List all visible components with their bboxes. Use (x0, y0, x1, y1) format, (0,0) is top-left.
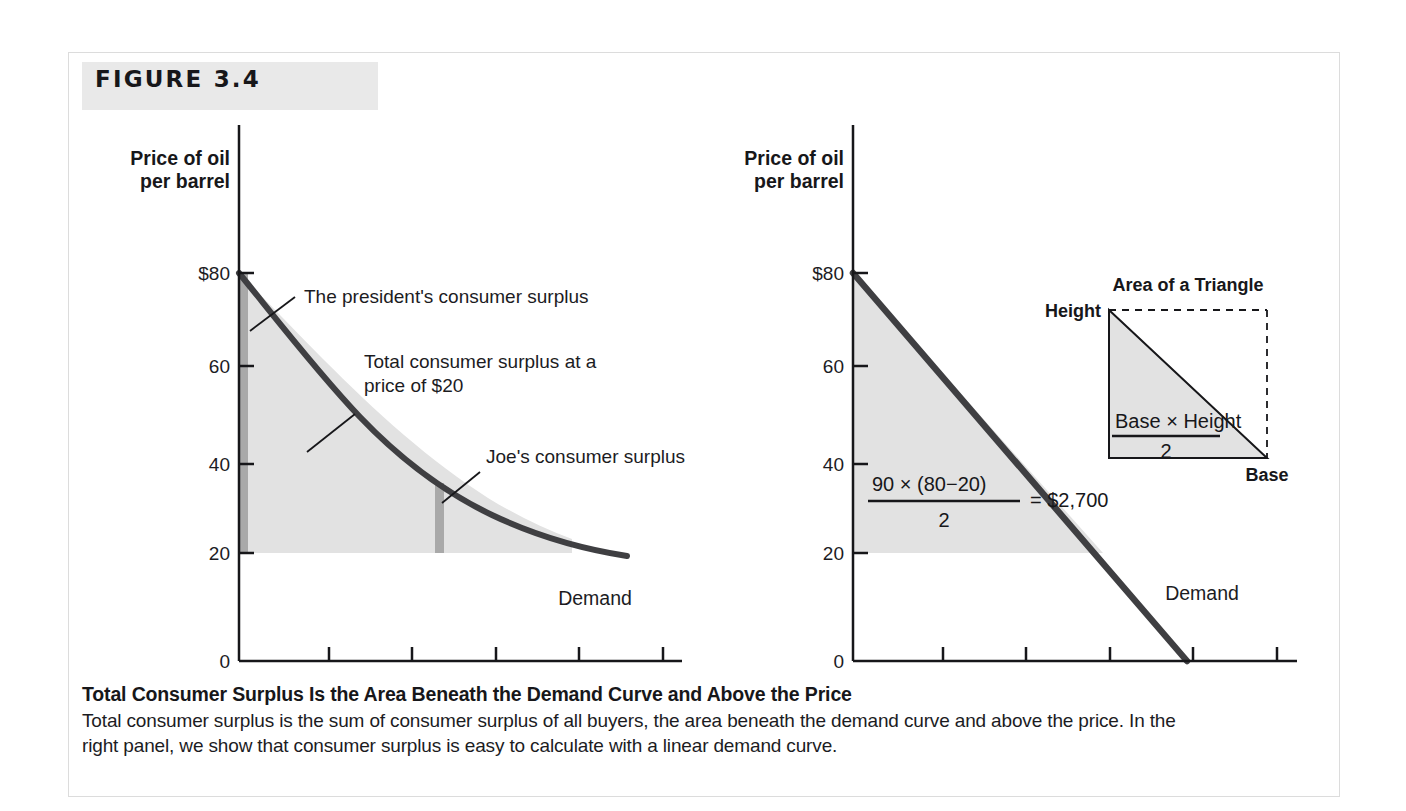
right-ylabel-40: 40 (823, 454, 844, 475)
left-xlabel-30: 30 (318, 674, 339, 678)
inset-formula-numerator: Base × Height (1115, 410, 1242, 432)
left-xlabel-60: 60 (401, 674, 422, 678)
total-surplus-annotation-line1: Total consumer surplus at a (364, 351, 597, 372)
caption-body: Total consumer surplus is the sum of con… (82, 708, 1212, 759)
inset-height-label: Height (1045, 301, 1101, 321)
president-annotation-text: The president's consumer surplus (304, 286, 589, 307)
right-ylabel-80: $80 (812, 263, 844, 284)
left-ylabel-80: $80 (198, 263, 230, 284)
right-formula-denominator: 2 (938, 509, 949, 531)
joe-surplus-bar (435, 483, 444, 553)
right-xlabel-60: 60 (1015, 674, 1036, 678)
inset-title-label: Area of a Triangle (1112, 275, 1263, 295)
figure-page: FIGURE 3.4 (0, 0, 1406, 811)
left-ylabel-60: 60 (209, 356, 230, 377)
inset-base-label: Base (1245, 465, 1288, 485)
left-y-axis-title-line2: per barrel (140, 170, 230, 192)
right-panel-chart: $80 60 40 20 0 0 30 60 90 120 150 Price … (744, 125, 1297, 678)
joe-annotation-text: Joe's consumer surplus (486, 446, 685, 467)
right-formula-result: = $2,700 (1030, 489, 1108, 511)
right-formula-numerator: 90 × (80−20) (872, 473, 987, 495)
left-y-axis-title-line1: Price of oil (130, 147, 230, 169)
figure-graphics: $80 60 40 20 0 0 30 60 90 120 150 Price … (82, 115, 1328, 678)
right-xlabel-90: 90 (1099, 674, 1120, 678)
left-xlabel-120: 120 (563, 674, 595, 678)
figure-card: FIGURE 3.4 (68, 52, 1340, 797)
left-ylabel-40: 40 (209, 454, 230, 475)
right-ylabel-0: 0 (833, 651, 844, 672)
total-surplus-annotation-line2: price of $20 (364, 375, 463, 396)
left-xlabel-0: 0 (234, 674, 245, 678)
area-of-triangle-inset: Area of a Triangle Height Base Base × He… (1045, 275, 1289, 485)
right-xlabel-150: 150 (1261, 674, 1293, 678)
left-ylabel-20: 20 (209, 543, 230, 564)
left-ylabel-0: 0 (219, 651, 230, 672)
figure-number-label: FIGURE 3.4 (95, 66, 261, 92)
left-consumer-surplus-shading (239, 273, 572, 553)
left-demand-label: Demand (558, 587, 632, 609)
right-ylabel-60: 60 (823, 356, 844, 377)
left-xlabel-150: 150 (647, 674, 679, 678)
inset-formula-denominator: 2 (1160, 440, 1171, 462)
right-demand-label: Demand (1165, 582, 1239, 604)
plot-area: $80 60 40 20 0 0 30 60 90 120 150 Price … (82, 115, 1328, 678)
left-xlabel-90: 90 (485, 674, 506, 678)
right-y-axis-title-line2: per barrel (754, 170, 844, 192)
right-ylabel-20: 20 (823, 543, 844, 564)
left-panel-chart: $80 60 40 20 0 0 30 60 90 120 150 Price … (130, 125, 685, 678)
president-surplus-bar (239, 273, 248, 553)
caption-title: Total Consumer Surplus Is the Area Benea… (82, 683, 1322, 706)
right-xlabel-30: 30 (932, 674, 953, 678)
right-xlabel-0: 0 (848, 674, 859, 678)
right-y-axis-title-line1: Price of oil (744, 147, 844, 169)
right-xlabel-120: 120 (1177, 674, 1209, 678)
figure-caption: Total Consumer Surplus Is the Area Benea… (82, 683, 1322, 759)
